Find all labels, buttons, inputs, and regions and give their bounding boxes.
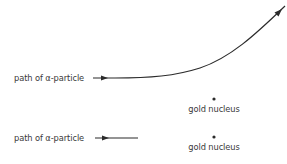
- nucleus-label-top: gold nucleus: [188, 105, 239, 113]
- path-label-top: path of α-particle: [14, 74, 84, 82]
- nucleus-label-bottom: gold nucleus: [188, 143, 239, 151]
- arrowhead-icon: [101, 76, 108, 81]
- path-label-bottom: path of α-particle: [14, 134, 84, 142]
- gold-nucleus-dot: [212, 97, 215, 100]
- deflected-path-line: [93, 6, 285, 78]
- arrowhead-icon: [102, 136, 109, 141]
- gold-nucleus-dot: [212, 135, 215, 138]
